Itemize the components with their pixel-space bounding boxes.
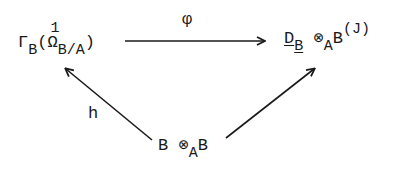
close-paren: ) <box>85 33 95 52</box>
node-bottom: B ⊗AB <box>158 137 208 154</box>
b-symbol: B <box>333 29 343 48</box>
tensor-subscript: A <box>324 38 333 55</box>
arrow-label-h: h <box>88 104 98 123</box>
open-paren: ( <box>37 33 47 52</box>
argument: (J) <box>343 21 370 38</box>
gamma-subscript: B <box>28 42 37 59</box>
arrow-label-phi: φ <box>182 10 192 29</box>
tensor-symbol: ⊗ <box>178 136 188 155</box>
tensor-symbol: ⊗ <box>313 29 323 48</box>
b-right: B <box>198 136 208 155</box>
node-top-left: ΓB(Ω1B/A) <box>18 34 95 51</box>
omega-superscript: 1 <box>50 21 59 36</box>
tensor-subscript: A <box>189 145 198 162</box>
left-arrow <box>66 69 152 140</box>
right-arrow <box>226 69 314 138</box>
d-subscript: B <box>294 38 303 55</box>
b-left: B <box>158 136 168 155</box>
d-symbol: D <box>284 29 294 48</box>
gamma-symbol: Γ <box>18 33 28 52</box>
omega-stack: Ω1 <box>47 34 57 51</box>
node-top-right: DB ⊗AB(J) <box>284 30 370 47</box>
omega-subscript: B/A <box>58 42 85 59</box>
